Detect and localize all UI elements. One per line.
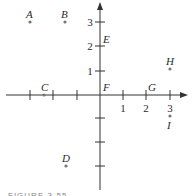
point-label-a: A	[25, 8, 33, 20]
point-label-d: D	[61, 152, 70, 164]
point-b-marker	[63, 20, 66, 23]
point-label-g: G	[148, 81, 156, 93]
point-c-marker	[42, 93, 45, 96]
y-tick-label-2: 2	[87, 40, 93, 52]
y-tick-label-3: 3	[87, 16, 93, 28]
point-d-marker	[64, 164, 67, 167]
point-a-marker	[28, 20, 31, 23]
point-label-h: H	[165, 55, 175, 67]
point-i-marker	[168, 114, 171, 117]
x-axis-arrow-icon	[180, 92, 188, 98]
y-tick-label-1: 1	[87, 65, 93, 77]
point-label-i: I	[166, 119, 172, 131]
x-tick-label-3: 3	[167, 102, 173, 114]
y-axis-arrow-icon	[97, 2, 103, 10]
coordinate-plane: 1 2 3 1 2 3 A B C D E F G H I FIGURE 3-5…	[0, 0, 192, 196]
figure-caption: FIGURE 3-55	[8, 191, 67, 196]
point-h-marker	[168, 67, 171, 70]
x-tick-label-1: 1	[120, 102, 126, 114]
point-label-c: C	[41, 81, 49, 93]
point-label-e: E	[102, 33, 110, 45]
point-label-f: F	[102, 81, 110, 93]
point-label-b: B	[61, 8, 68, 20]
x-tick-label-2: 2	[143, 102, 149, 114]
